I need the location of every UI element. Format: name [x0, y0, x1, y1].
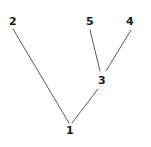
node-label-4: 4 [126, 16, 134, 27]
edge-4-to-3 [106, 30, 131, 71]
edge-3-to-1 [72, 89, 98, 123]
node-label-2: 2 [9, 16, 17, 27]
node-label-5: 5 [86, 16, 94, 27]
node-label-1: 1 [66, 125, 74, 136]
edge-5-to-3 [90, 30, 100, 71]
edge-2-to-1 [13, 29, 69, 123]
node-label-3: 3 [98, 75, 106, 86]
tree-diagram: 2 5 4 3 1 [0, 0, 151, 147]
